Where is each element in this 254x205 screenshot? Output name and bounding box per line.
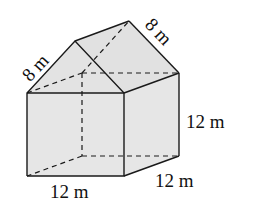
label-height: 12 m (186, 111, 225, 132)
house-prism-diagram: 8 m 8 m 12 m 12 m 12 m (0, 0, 254, 205)
solid-faces (27, 21, 179, 176)
label-width: 12 m (50, 181, 89, 202)
label-depth: 12 m (155, 170, 194, 191)
front-face (27, 93, 124, 176)
